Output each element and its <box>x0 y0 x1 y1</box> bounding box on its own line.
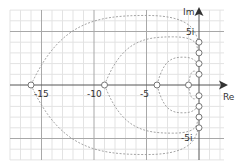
pole-marker-icon <box>196 61 202 67</box>
x-tick-label: -10 <box>87 89 102 99</box>
pole-marker-icon <box>196 50 202 56</box>
locus-curve <box>105 85 200 133</box>
x-tick-label: -15 <box>34 89 49 99</box>
im-axis-label: Im <box>183 7 194 17</box>
complex-plane-diagram: Re Im -15 -10 -5 5i -5i <box>0 0 237 166</box>
axis-labels: Re Im -15 -10 -5 5i -5i <box>34 7 235 143</box>
pole-marker-icon <box>28 82 34 88</box>
pole-marker-icon <box>154 82 160 88</box>
pole-marker-icon <box>196 114 202 120</box>
pole-marker-icon <box>196 39 202 45</box>
pole-marker-icon <box>186 82 192 88</box>
x-tick-label: -5 <box>140 89 149 99</box>
y-tick-label: 5i <box>186 27 194 37</box>
y-tick-label: -5i <box>181 133 192 143</box>
pole-marker-icon <box>196 125 202 131</box>
re-axis-label: Re <box>223 92 235 102</box>
pole-marker-icon <box>196 93 202 99</box>
pole-marker-icon <box>102 82 108 88</box>
pole-marker-icon <box>196 103 202 109</box>
locus-curve <box>105 37 200 85</box>
pole-marker-icon <box>196 71 202 77</box>
